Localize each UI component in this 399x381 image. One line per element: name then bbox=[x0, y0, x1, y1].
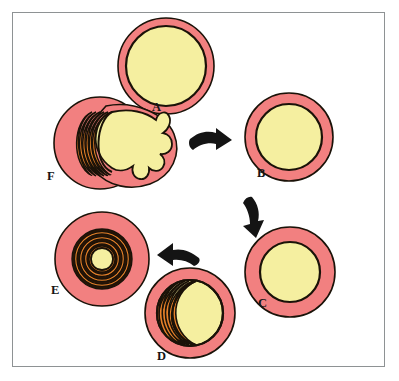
flow-arrow-d-to-e bbox=[157, 243, 200, 266]
stage-label-b: B bbox=[257, 167, 266, 180]
flow-arrow-a-to-b-shape bbox=[189, 128, 232, 150]
stage-a-relaxed bbox=[118, 18, 214, 114]
stage-c-core bbox=[260, 242, 320, 302]
stage-b-core bbox=[256, 104, 322, 170]
stage-label-d: D bbox=[157, 350, 166, 363]
flow-arrow-b-to-c bbox=[243, 197, 264, 238]
stage-label-e: E bbox=[51, 284, 60, 297]
stage-label-c: C bbox=[258, 297, 267, 310]
stage-d-eccentric-infolding bbox=[145, 268, 235, 358]
figure-root: A B C D E F bbox=[0, 0, 399, 381]
stage-a-core bbox=[126, 26, 206, 106]
flow-arrow-b-to-c-shape bbox=[243, 197, 264, 238]
figure-canvas bbox=[0, 0, 399, 381]
stage-label-f: F bbox=[47, 170, 55, 183]
flow-arrow-d-to-e-shape bbox=[157, 243, 200, 266]
stage-e-concentric-infolding bbox=[55, 212, 149, 306]
stage-label-a: A bbox=[152, 101, 161, 114]
stage-e-core bbox=[91, 248, 113, 270]
flow-arrow-a-to-b bbox=[189, 128, 232, 150]
